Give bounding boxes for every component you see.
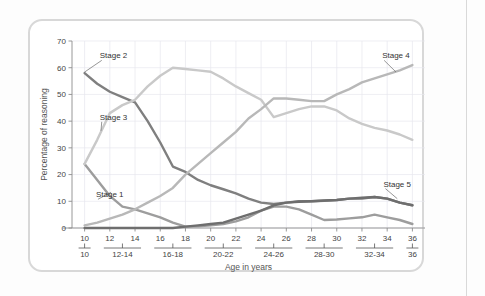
x-tick-label: 32 (358, 234, 367, 243)
y-tick-label: 30 (57, 144, 66, 153)
annotation-leader (384, 60, 396, 72)
x-group-label: 16-18 (163, 250, 184, 259)
chart-screenshot: 010203040506070Percentage of reasoning10… (0, 0, 485, 296)
x-group-label: 20-22 (213, 250, 234, 259)
x-tick-label: 30 (332, 234, 341, 243)
y-tick-label: 50 (57, 90, 66, 99)
x-tick-label: 28 (307, 234, 316, 243)
x-tick-label: 34 (383, 234, 392, 243)
x-tick-label: 16 (156, 234, 165, 243)
x-tick-label: 22 (231, 234, 240, 243)
x-tick-label: 24 (257, 234, 266, 243)
series-annotation-stage-3: Stage 3 (100, 113, 128, 122)
x-tick-label: 36 (408, 234, 417, 243)
y-tick-label: 60 (57, 64, 66, 73)
x-group-label: 28-30 (314, 250, 335, 259)
y-tick-label: 40 (57, 117, 66, 126)
series-annotation-stage-5: Stage 5 (383, 180, 411, 189)
x-group-label: 32-34 (364, 250, 385, 259)
x-tick-label: 10 (80, 234, 89, 243)
x-group-label: 10 (80, 250, 89, 259)
series-line-stage-1 (85, 164, 413, 227)
x-tick-label: 18 (181, 234, 190, 243)
series-annotation-stage-4: Stage 4 (382, 51, 410, 60)
chart-plot-wrapper: 010203040506070Percentage of reasoning10… (0, 0, 485, 296)
series-annotation-stage-2: Stage 2 (100, 51, 128, 60)
x-tick-label: 20 (206, 234, 215, 243)
x-group-label: 12-14 (112, 250, 133, 259)
x-group-label: 24-26 (263, 250, 284, 259)
annotation-leader (85, 60, 102, 72)
line-chart: 010203040506070Percentage of reasoning10… (0, 0, 485, 296)
series-annotation-stage-1: Stage 1 (96, 190, 124, 199)
x-group-label: 36 (408, 250, 417, 259)
x-axis-title: Age in years (225, 262, 272, 272)
y-tick-label: 10 (57, 197, 66, 206)
y-tick-label: 20 (57, 170, 66, 179)
x-tick-label: 14 (131, 234, 140, 243)
y-axis-title: Percentage of reasoning (39, 88, 49, 181)
series-line-stage-5 (85, 197, 413, 228)
x-tick-label: 12 (105, 234, 114, 243)
y-tick-label: 0 (62, 224, 67, 233)
x-tick-label: 26 (282, 234, 291, 243)
y-tick-label: 70 (57, 37, 66, 46)
